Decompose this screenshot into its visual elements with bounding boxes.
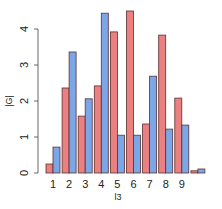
bar-series-blue-1 [53,147,60,173]
bar-series-red-4 [94,86,101,173]
x-tick-label: 6 [130,178,136,190]
x-tick-label: 7 [147,178,153,190]
bar-series-red-2 [62,88,69,173]
bar-series-blue-3 [85,99,92,173]
bar-chart: 01234 123456789 |G| l3 [0,0,222,209]
x-tick-label: 9 [179,178,185,190]
y-tick-label: 1 [18,134,30,140]
bar-series-red-7 [143,124,150,173]
bar-series-red-extra [191,171,198,173]
bar-series-blue-5 [117,135,124,173]
x-axis-labels: 123456789 [50,178,185,190]
bar-series-red-9 [175,98,182,173]
x-tick-label: 4 [98,178,104,190]
y-tick-label: 2 [18,98,30,104]
bar-series-blue-6 [134,135,141,173]
x-tick-label: 3 [82,178,88,190]
bar-series-blue-7 [150,76,157,173]
bar-series-blue-extra [198,169,205,173]
x-tick-label: 5 [114,178,120,190]
bar-series-red-1 [46,164,53,173]
bar-series-red-8 [159,35,166,173]
y-tick-label: 3 [18,62,30,68]
bar-series-red-5 [110,32,117,173]
y-axis: 01234 [18,26,38,176]
bar-series-blue-4 [101,13,108,173]
bar-series-blue-9 [182,125,189,173]
y-axis-title: |G| [4,95,14,107]
x-tick-label: 2 [66,178,72,190]
x-axis-title: l3 [114,192,121,202]
y-tick-label: 4 [18,26,30,32]
x-tick-label: 8 [163,178,169,190]
bars-group [46,11,205,173]
bar-series-blue-2 [69,52,76,173]
y-tick-label: 0 [18,170,30,176]
bar-series-blue-8 [166,129,173,173]
bar-series-red-3 [78,116,85,173]
x-tick-label: 1 [50,178,56,190]
bar-series-red-6 [127,11,134,173]
